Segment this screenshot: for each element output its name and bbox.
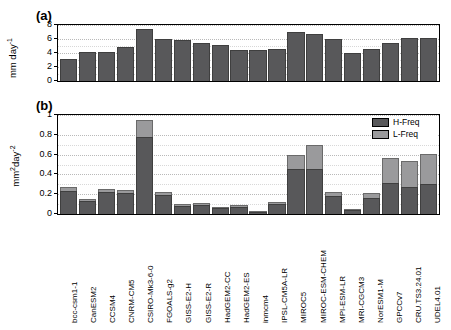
panel-b-bar bbox=[60, 187, 77, 214]
bar-segment bbox=[98, 52, 115, 81]
panel-a-bar bbox=[230, 50, 247, 82]
bar-segment-h-freq bbox=[212, 208, 229, 214]
x-axis-tick-labels: bcc-csm1-1CanESM2CCSM4CNRM-CM5CSIRO-Mk3-… bbox=[57, 215, 440, 330]
bar-segment-h-freq bbox=[193, 205, 210, 214]
panel-a-bar bbox=[287, 32, 304, 81]
bar-segment bbox=[287, 32, 304, 81]
bar-segment-h-freq bbox=[382, 183, 399, 214]
bar-segment-l-freq bbox=[420, 154, 437, 185]
panel-b-bar bbox=[363, 193, 380, 214]
x-tick-label: CanESM2 bbox=[89, 287, 98, 323]
bar-segment bbox=[193, 43, 210, 81]
legend-item: H-Freq bbox=[372, 117, 438, 127]
panel-b-bar bbox=[287, 155, 304, 214]
bar-segment-l-freq bbox=[382, 158, 399, 184]
x-tick-label: CSIRO-Mk3-6-0 bbox=[146, 266, 155, 323]
panel-a-bar bbox=[98, 52, 115, 81]
bar-segment-h-freq bbox=[98, 192, 115, 214]
x-tick-label: CRU.TS3.24.01 bbox=[414, 267, 423, 323]
bar-segment-l-freq bbox=[136, 120, 153, 137]
panel-a-bar bbox=[212, 45, 229, 81]
panel-b-bar bbox=[79, 199, 96, 214]
panel-b-y-tick-label: 0.2 bbox=[18, 188, 52, 198]
bar-segment bbox=[306, 34, 323, 81]
bar-segment bbox=[249, 50, 266, 81]
panel-b-bar bbox=[117, 190, 134, 214]
bar-segment bbox=[155, 39, 172, 81]
x-tick-label: MPI-ESM-LR bbox=[338, 276, 347, 323]
x-tick-label: CCSM4 bbox=[108, 295, 117, 323]
panel-b-bar bbox=[268, 202, 285, 214]
panel-a-y-tick-label: 0 bbox=[18, 75, 52, 85]
bar-segment bbox=[344, 53, 361, 81]
bar-segment-h-freq bbox=[155, 195, 172, 214]
panel-a-bar bbox=[325, 39, 342, 81]
legend-label: H-Freq bbox=[393, 117, 419, 127]
panel-b-bar bbox=[174, 204, 191, 214]
x-tick-label: GPCCv7 bbox=[395, 291, 404, 323]
panel-b-bar bbox=[249, 211, 266, 214]
panel-b-y-tick-label: 1 bbox=[18, 109, 52, 119]
panel-b-bar bbox=[212, 207, 229, 214]
x-tick-label: GISS-E2-H bbox=[184, 283, 193, 323]
panel-b-bar bbox=[155, 192, 172, 214]
panel-a-bar bbox=[306, 34, 323, 81]
bar-segment bbox=[268, 49, 285, 81]
bar-segment-l-freq bbox=[401, 161, 418, 188]
bar-segment bbox=[401, 38, 418, 81]
panel-b-bar bbox=[344, 209, 361, 214]
x-tick-label: FGOALS-g2 bbox=[165, 279, 174, 323]
panel-a-bar bbox=[401, 38, 418, 81]
bar-segment-h-freq bbox=[401, 187, 418, 214]
bar-segment-h-freq bbox=[79, 201, 96, 214]
bar-segment bbox=[136, 29, 153, 81]
panel-b-bar bbox=[306, 145, 323, 214]
x-tick-label: bcc-csm1-1 bbox=[70, 282, 79, 323]
panel-a-bar bbox=[155, 39, 172, 81]
panel-a-bar bbox=[344, 53, 361, 81]
bar-segment bbox=[212, 45, 229, 81]
panel-a-bar bbox=[79, 52, 96, 81]
panel-a-y-tick-label: 6 bbox=[18, 33, 52, 43]
x-tick-label: HadGEM2-CC bbox=[223, 271, 232, 323]
bar-segment bbox=[325, 39, 342, 81]
figure-container: (a) mm day-1 02468 (b) mm2day-2 00.20.40… bbox=[0, 0, 451, 330]
legend-item: L-Freq bbox=[372, 129, 438, 139]
bar-segment-h-freq bbox=[306, 169, 323, 214]
bar-segment bbox=[230, 50, 247, 82]
panel-a-bar bbox=[193, 43, 210, 81]
bar-segment-h-freq bbox=[60, 191, 77, 214]
x-tick-label: MRI-CGCM3 bbox=[357, 277, 366, 323]
panel-a-bars bbox=[58, 25, 439, 81]
bar-segment bbox=[60, 59, 77, 81]
panel-a-bar bbox=[382, 43, 399, 82]
panel-b-y-tick-label: 0 bbox=[18, 208, 52, 218]
panel-b-bar bbox=[325, 192, 342, 214]
x-tick-label: HadGEM2-ES bbox=[242, 272, 251, 323]
panel-a-y-axis-label-text: mm day-1 bbox=[7, 38, 18, 78]
bar-segment bbox=[382, 43, 399, 82]
x-tick-label: inmcm4 bbox=[261, 295, 270, 323]
bar-segment-h-freq bbox=[230, 207, 247, 214]
x-tick-label: MIROC-ESM-CHEM bbox=[319, 250, 328, 323]
bar-segment-h-freq bbox=[344, 210, 361, 214]
bar-segment bbox=[420, 38, 437, 81]
bar-segment-h-freq bbox=[117, 193, 134, 214]
legend-swatch bbox=[372, 118, 389, 127]
panel-a-y-axis-label: mm day-1 bbox=[6, 27, 18, 89]
bar-segment bbox=[117, 47, 134, 81]
bar-segment-h-freq bbox=[249, 212, 266, 214]
panel-a-plot-area bbox=[57, 24, 440, 82]
panel-b-y-tick-label: 0.6 bbox=[18, 149, 52, 159]
panel-a-y-tick-label: 2 bbox=[18, 61, 52, 71]
panel-a-bar bbox=[249, 50, 266, 81]
bar-segment-l-freq bbox=[306, 145, 323, 169]
panel-a-bar bbox=[136, 29, 153, 81]
legend-label: L-Freq bbox=[393, 129, 418, 139]
panel-b-bar bbox=[420, 154, 437, 214]
panel-b-bar bbox=[382, 158, 399, 214]
x-tick-label: IPSL-CM5A-LR bbox=[280, 268, 289, 323]
panel-a-y-tick-label: 8 bbox=[18, 19, 52, 29]
bar-segment-h-freq bbox=[174, 206, 191, 214]
x-tick-label: MIROC5 bbox=[299, 292, 308, 323]
